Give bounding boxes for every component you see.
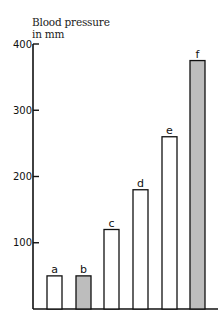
bar-label-e: e	[166, 124, 173, 137]
bar-chart: 100200300400abcdef	[0, 0, 224, 331]
bar-e	[162, 137, 177, 309]
bar-f	[190, 61, 205, 309]
bar-label-a: a	[51, 263, 58, 276]
bar-c	[104, 230, 119, 310]
bar-a	[47, 276, 62, 309]
bar-label-c: c	[108, 217, 114, 230]
bar-label-d: d	[137, 177, 144, 190]
bar-label-b: b	[80, 263, 87, 276]
bar-d	[133, 190, 148, 309]
bar-b	[76, 276, 91, 309]
bar-label-f: f	[196, 48, 201, 61]
y-tick-label: 200	[13, 171, 32, 182]
y-tick-label: 100	[13, 237, 32, 248]
y-tick-label: 400	[13, 39, 32, 50]
y-tick-label: 300	[13, 105, 32, 116]
